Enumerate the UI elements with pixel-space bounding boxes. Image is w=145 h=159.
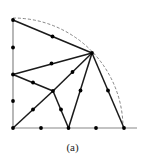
node-m_CA (71, 70, 75, 74)
node-B3 (94, 126, 98, 130)
node-m_OC (31, 108, 35, 112)
node-L2 (11, 73, 15, 77)
node-B1 (39, 126, 43, 130)
node-C (51, 89, 55, 93)
arc-path (13, 18, 123, 128)
node-m_CB2 (59, 108, 63, 112)
node-L4 (11, 18, 15, 22)
node-L3 (11, 46, 15, 50)
node-O (11, 126, 15, 130)
figure-caption: (a) (0, 141, 145, 153)
node-B2 (67, 126, 71, 130)
node-m_AB4 (106, 89, 110, 93)
dashed-quarter-circle-arc (13, 18, 123, 128)
node-L1 (11, 99, 15, 103)
node-B4 (122, 126, 126, 130)
node-m_B2A (79, 89, 83, 93)
mesh-diagram (0, 0, 145, 159)
node-m_L4A (51, 35, 55, 39)
node-A (90, 51, 94, 55)
mesh-edges (13, 20, 124, 128)
node-m_L2A (50, 62, 54, 66)
node-m_L2C (31, 81, 35, 85)
